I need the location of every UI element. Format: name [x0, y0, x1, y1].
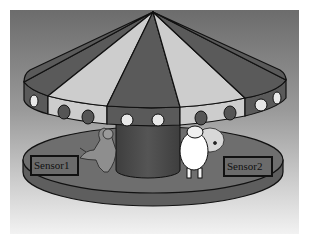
sensor1-label: Sensor1 [30, 155, 79, 176]
carousel-scene [0, 0, 310, 239]
sensor2-label: Sensor2 [223, 156, 273, 177]
center-pole [116, 118, 180, 178]
